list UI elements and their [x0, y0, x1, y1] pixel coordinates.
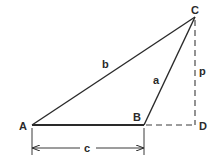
dimension-label-c: c: [84, 142, 90, 154]
vertex-label-b: B: [133, 111, 141, 123]
vertex-label-d: D: [199, 120, 207, 132]
side-label-p: p: [199, 65, 206, 77]
side-label-a: a: [153, 74, 160, 86]
side-label-b: b: [102, 58, 109, 70]
side-b-line: [32, 17, 195, 125]
triangle-diagram: A B C D b a p c: [0, 0, 218, 161]
vertex-label-c: C: [191, 4, 199, 16]
vertex-label-a: A: [19, 120, 27, 132]
